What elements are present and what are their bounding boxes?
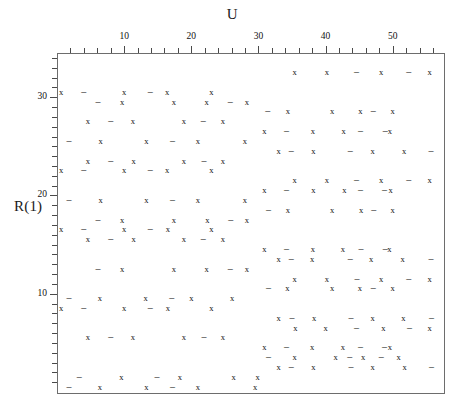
- marker-dash: –: [382, 185, 387, 195]
- marker-x: x: [182, 333, 186, 342]
- marker-x: x: [144, 196, 148, 205]
- x-tick: [151, 48, 152, 53]
- marker-x: x: [389, 186, 393, 195]
- marker-x: x: [262, 186, 266, 195]
- x-tick: [218, 48, 219, 53]
- marker-dash: –: [170, 136, 175, 146]
- x-tick: [138, 48, 139, 53]
- marker-x: x: [196, 137, 200, 146]
- marker-x: x: [230, 294, 234, 303]
- marker-dash: –: [148, 303, 153, 313]
- x-tick: [299, 48, 300, 53]
- marker-x: x: [286, 205, 290, 214]
- x-tick: [178, 48, 179, 53]
- marker-x: x: [333, 353, 337, 362]
- marker-x: x: [427, 68, 431, 77]
- marker-x: x: [99, 196, 103, 205]
- y-tick: [52, 245, 57, 246]
- marker-x: x: [144, 382, 148, 391]
- marker-x: x: [131, 333, 135, 342]
- y-tick: [52, 254, 57, 255]
- marker-x: x: [325, 274, 329, 283]
- marker-x: x: [172, 97, 176, 106]
- marker-dash: –: [202, 156, 207, 166]
- marker-x: x: [342, 186, 346, 195]
- marker-x: x: [120, 264, 124, 273]
- marker-dash: –: [406, 67, 411, 77]
- marker-dash: –: [348, 146, 353, 156]
- x-tick-label: 40: [313, 31, 339, 41]
- x-tick: [272, 48, 273, 53]
- x-tick: [312, 48, 313, 53]
- marker-x: x: [221, 235, 225, 244]
- marker-x: x: [196, 382, 200, 391]
- x-tick: [352, 48, 353, 53]
- marker-dash: –: [289, 362, 294, 372]
- marker-dash: –: [148, 165, 153, 175]
- marker-x: x: [99, 137, 103, 146]
- x-tick: [393, 46, 394, 53]
- x-tick: [379, 48, 380, 53]
- marker-x: x: [205, 264, 209, 273]
- marker-dash: –: [371, 205, 376, 215]
- marker-x: x: [122, 88, 126, 97]
- marker-dash: –: [371, 283, 376, 293]
- marker-x: x: [144, 137, 148, 146]
- marker-x: x: [243, 137, 247, 146]
- marker-x: x: [189, 294, 193, 303]
- marker-x: x: [341, 245, 345, 254]
- marker-x: x: [119, 373, 123, 382]
- marker-dash: –: [349, 362, 354, 372]
- marker-dash: –: [428, 254, 433, 264]
- marker-x: x: [311, 186, 315, 195]
- marker-x: x: [330, 107, 334, 116]
- x-tick: [285, 48, 286, 53]
- marker-x: x: [427, 323, 431, 332]
- marker-dash: –: [108, 156, 113, 166]
- marker-x: x: [196, 196, 200, 205]
- marker-x: x: [310, 255, 314, 264]
- y-tick: [52, 353, 57, 354]
- marker-x: x: [293, 176, 297, 185]
- marker-dash: –: [354, 175, 359, 185]
- y-tick-label: 20: [25, 189, 47, 199]
- marker-x: x: [342, 127, 346, 136]
- marker-x: x: [221, 333, 225, 342]
- marker-x: x: [131, 117, 135, 126]
- marker-x: x: [427, 176, 431, 185]
- x-tick-label: 20: [178, 31, 204, 41]
- marker-dash: –: [67, 293, 72, 303]
- y-tick: [52, 343, 57, 344]
- x-tick: [84, 48, 85, 53]
- marker-x: x: [325, 176, 329, 185]
- marker-x: x: [369, 255, 373, 264]
- marker-dash: –: [289, 254, 294, 264]
- x-tick: [111, 48, 112, 53]
- marker-dash: –: [284, 342, 289, 352]
- marker-x: x: [120, 215, 124, 224]
- marker-dash: –: [95, 264, 100, 274]
- marker-dash: –: [348, 254, 353, 264]
- marker-x: x: [391, 284, 395, 293]
- marker-dash: –: [429, 313, 434, 323]
- y-tick: [52, 382, 57, 383]
- marker-x: x: [401, 255, 405, 264]
- marker-x: x: [310, 343, 314, 352]
- marker-dash: –: [266, 283, 271, 293]
- marker-dash: –: [383, 126, 388, 136]
- marker-dash: –: [358, 126, 363, 136]
- marker-x: x: [381, 323, 385, 332]
- y-tick: [52, 304, 57, 305]
- y-tick: [52, 372, 57, 373]
- marker-dash: –: [407, 323, 412, 333]
- marker-dash: –: [95, 97, 100, 107]
- marker-x: x: [172, 215, 176, 224]
- y-tick: [52, 274, 57, 275]
- marker-x: x: [358, 107, 362, 116]
- marker-dash: –: [371, 106, 376, 116]
- marker-x: x: [391, 107, 395, 116]
- marker-dash: –: [347, 352, 352, 362]
- marker-x: x: [293, 68, 297, 77]
- marker-x: x: [182, 117, 186, 126]
- marker-x: x: [131, 235, 135, 244]
